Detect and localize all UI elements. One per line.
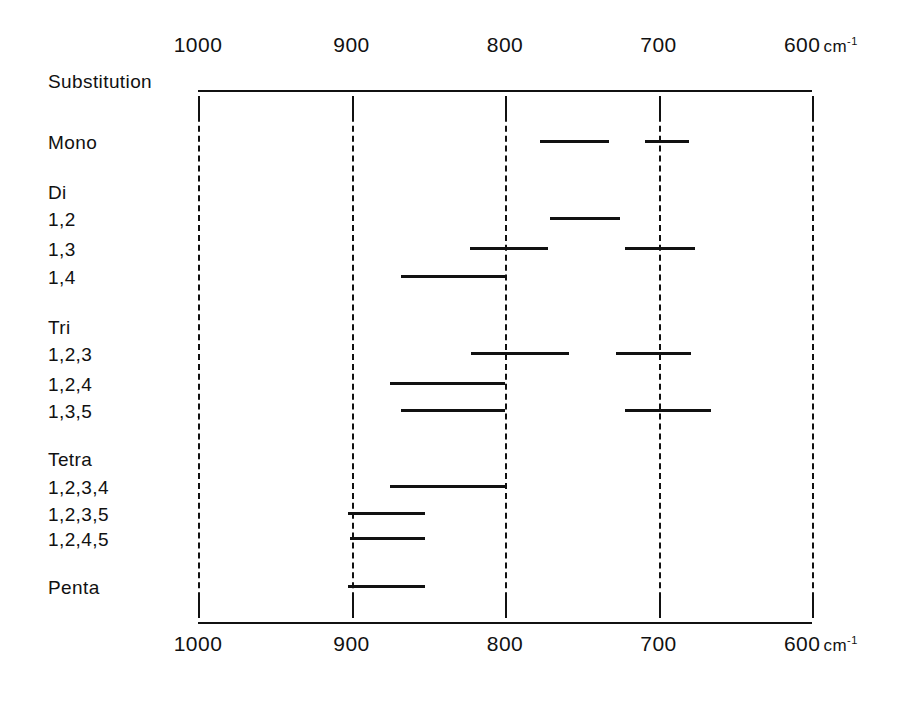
- row-label-1-2-4-5: 1,2,4,5: [48, 530, 109, 549]
- band-bar: [390, 382, 505, 385]
- row-label-1-4: 1,4: [48, 268, 76, 287]
- row-label-Mono: Mono: [48, 133, 97, 152]
- band-bar: [625, 247, 696, 250]
- axis-unit-label: cm-1: [823, 636, 857, 655]
- band-bar: [348, 585, 425, 588]
- row-label-Tetra: Tetra: [48, 450, 92, 469]
- axis-tick-mark: [659, 594, 661, 616]
- axis-tick-label-800: 800: [487, 632, 524, 656]
- row-label-Penta: Penta: [48, 578, 100, 597]
- axis-rule: [198, 622, 812, 624]
- band-bar: [645, 140, 690, 143]
- axis-unit-exponent: -1: [847, 35, 858, 47]
- row-label-Di: Di: [48, 183, 67, 202]
- band-bar: [550, 217, 621, 220]
- axis-unit-label: cm-1: [823, 37, 857, 56]
- band-bar: [348, 512, 425, 515]
- band-bar: [350, 537, 425, 540]
- page-title: Substitution: [48, 72, 152, 91]
- row-label-1-2-3-4: 1,2,3,4: [48, 478, 109, 497]
- row-label-Tri: Tri: [48, 318, 71, 337]
- band-bar: [390, 485, 505, 488]
- axis-tick-label-600: 600cm-1: [784, 33, 858, 57]
- ir-correlation-chart: 1000900800700600cm-1 Substitution MonoDi…: [0, 0, 923, 705]
- row-label-1-3: 1,3: [48, 240, 76, 259]
- row-label-1-3-5: 1,3,5: [48, 402, 92, 421]
- band-bar: [470, 247, 548, 250]
- band-bar: [616, 352, 691, 355]
- axis-unit-text: cm: [823, 37, 847, 56]
- axis-tick-label-1000: 1000: [174, 33, 223, 57]
- axis-tick-value: 600: [784, 33, 821, 56]
- axis-unit-exponent: -1: [847, 634, 858, 646]
- axis-rule: [198, 90, 812, 92]
- axis-tick-label-700: 700: [640, 632, 677, 656]
- row-label-1-2-3: 1,2,3: [48, 345, 92, 364]
- row-label-1-2-3-5: 1,2,3,5: [48, 505, 109, 524]
- axis-tick-label-600: 600cm-1: [784, 632, 858, 656]
- band-bar: [540, 140, 609, 143]
- gridline-600: [812, 96, 814, 618]
- band-bar: [471, 352, 569, 355]
- gridline-700: [659, 96, 661, 618]
- axis-tick-label-900: 900: [333, 632, 370, 656]
- band-bar: [401, 409, 505, 412]
- row-label-1-2-4: 1,2,4: [48, 375, 92, 394]
- axis-tick-mark: [198, 594, 200, 616]
- row-label-1-2: 1,2: [48, 210, 76, 229]
- axis-tick-mark: [812, 594, 814, 616]
- axis-tick-label-900: 900: [333, 33, 370, 57]
- axis-tick-mark: [505, 594, 507, 616]
- axis-tick-mark: [352, 594, 354, 616]
- axis-tick-label-800: 800: [487, 33, 524, 57]
- axis-tick-label-700: 700: [640, 33, 677, 57]
- band-bar: [401, 275, 505, 278]
- gridline-800: [505, 96, 507, 618]
- axis-tick-label-1000: 1000: [174, 632, 223, 656]
- axis-tick-value: 600: [784, 632, 821, 655]
- band-bar: [625, 409, 711, 412]
- axis-unit-text: cm: [823, 636, 847, 655]
- gridline-1000: [198, 96, 200, 618]
